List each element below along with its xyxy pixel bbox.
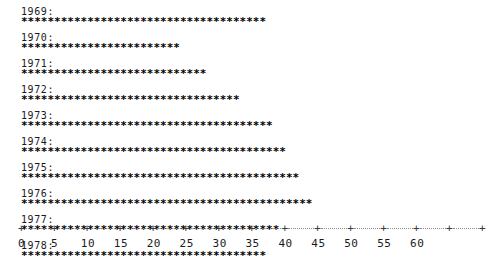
axis-tick-mark: +: [18, 223, 25, 235]
axis-tick-mark: +: [413, 223, 420, 235]
row-bar: ****************************************…: [21, 198, 455, 210]
axis-tick-rule: [255, 228, 281, 230]
axis-tick-rule: [420, 228, 446, 230]
chart-row: 1976:***********************************…: [21, 188, 455, 214]
axis-tick-label: 50: [344, 237, 358, 251]
axis-tick-mark: +: [84, 223, 91, 235]
axis-tick-rule: [190, 228, 216, 230]
axis-tick-mark: +: [216, 223, 223, 235]
axis-tick-mark: +: [479, 223, 486, 235]
row-bar: ****************************: [21, 68, 455, 80]
axis-tick-mark: +: [150, 223, 157, 235]
axis-tick-rule: [58, 228, 84, 230]
axis-tick-label: 40: [278, 237, 292, 251]
axis-tick-mark: +: [446, 223, 453, 235]
axis-tick-label: 60: [410, 237, 424, 251]
chart-row: 1969:***********************************…: [21, 6, 455, 32]
axis-tick-mark: +: [248, 223, 255, 235]
axis-tick-rule: [387, 228, 413, 230]
row-bar: ************************: [21, 42, 455, 54]
chart-row: 1975:***********************************…: [21, 162, 455, 188]
chart-row: 1974:***********************************…: [21, 136, 455, 162]
axis-tick-label: 0: [18, 237, 25, 251]
axis-tick-rule: [453, 228, 479, 230]
axis-tick-rule: [354, 228, 380, 230]
row-bar: *************************************: [21, 16, 455, 28]
axis-tick-label: 5: [51, 237, 58, 251]
axis-tick-label: 20: [147, 237, 161, 251]
axis-tick-mark: +: [117, 223, 124, 235]
x-axis: +++++++++++++++ 051015202530354045505560: [0, 224, 455, 258]
axis-tick-label: 55: [377, 237, 391, 251]
axis-tick-mark: +: [281, 223, 288, 235]
axis-tick-mark: +: [314, 223, 321, 235]
axis-tick-rule: [321, 228, 347, 230]
row-bar: **************************************: [21, 120, 455, 132]
axis-tick-label: 10: [81, 237, 95, 251]
axis-tick-label: 35: [245, 237, 259, 251]
row-bar: ****************************************: [21, 146, 455, 158]
axis-tick-mark: +: [183, 223, 190, 235]
axis-tick-rule: [91, 228, 117, 230]
chart-row: 1970:************************: [21, 32, 455, 58]
axis-tick-label: 25: [180, 237, 194, 251]
axis-tick-label: 30: [213, 237, 227, 251]
x-axis-tick-labels: 051015202530354045505560: [21, 237, 449, 253]
axis-tick-label: 45: [311, 237, 325, 251]
axis-tick-rule: [124, 228, 150, 230]
row-bar: ****************************************…: [21, 172, 455, 184]
axis-tick-label: 15: [114, 237, 128, 251]
axis-tick-mark: +: [347, 223, 354, 235]
axis-tick-mark: +: [51, 223, 58, 235]
axis-tick-rule: [157, 228, 183, 230]
axis-tick-rule: [223, 228, 249, 230]
chart-row: 1971:****************************: [21, 58, 455, 84]
chart-row: 1973:***********************************…: [21, 110, 455, 136]
x-axis-line: +++++++++++++++: [21, 224, 449, 236]
chart-row: 1972:*********************************: [21, 84, 455, 110]
axis-tick-mark: +: [380, 223, 387, 235]
row-bar: *********************************: [21, 94, 455, 106]
axis-tick-rule: [25, 228, 51, 230]
axis-tick-rule: [288, 228, 314, 230]
